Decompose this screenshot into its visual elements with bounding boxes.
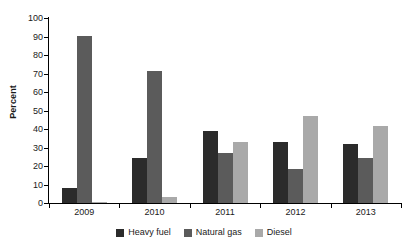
legend-label: Heavy fuel — [128, 228, 171, 237]
y-axis-tick-labels: 0102030405060708090100 — [20, 0, 46, 210]
y-axis-title: Percent — [5, 0, 21, 203]
y-axis-tick-label: 10 — [33, 180, 43, 189]
x-axis-tick-label: 2009 — [74, 208, 94, 217]
legend-swatch-icon — [116, 229, 124, 237]
bar-2011-heavy-fuel — [203, 131, 218, 203]
x-axis-tick-label: 2013 — [356, 208, 376, 217]
y-axis-tick-mark — [44, 148, 48, 149]
legend-swatch-icon — [255, 229, 263, 237]
bar-2010-natural-gas — [147, 71, 162, 203]
y-axis-tick-mark — [44, 18, 48, 19]
x-axis-tick-label: 2012 — [285, 208, 305, 217]
bar-group-2009 — [62, 18, 107, 203]
bar-2012-heavy-fuel — [273, 142, 288, 203]
x-axis-tick-label: 2010 — [145, 208, 165, 217]
bar-2009-diesel — [92, 202, 107, 203]
y-axis-title-label: Percent — [8, 85, 18, 119]
bar-2010-diesel — [162, 197, 177, 203]
bar-2012-natural-gas — [288, 169, 303, 203]
bar-2013-heavy-fuel — [343, 144, 358, 203]
legend-swatch-icon — [184, 229, 192, 237]
y-axis-tick-mark — [44, 185, 48, 186]
bar-2010-heavy-fuel — [132, 158, 147, 203]
x-axis-tick-mark — [401, 203, 402, 208]
y-axis-tick-label: 60 — [33, 88, 43, 97]
bar-2009-heavy-fuel — [62, 188, 77, 203]
y-axis-tick-mark — [44, 129, 48, 130]
y-axis-tick-label: 90 — [33, 32, 43, 41]
legend-item-heavy-fuel: Heavy fuel — [116, 228, 171, 237]
bar-2011-natural-gas — [218, 153, 233, 203]
y-axis-tick-label: 70 — [33, 69, 43, 78]
x-axis-tick-labels: 20092010201120122013 — [49, 208, 401, 222]
chart-legend: Heavy fuelNatural gasDiesel — [0, 228, 408, 237]
y-axis-tick-mark — [44, 92, 48, 93]
bar-chart: Percent 0102030405060708090100 200920102… — [0, 0, 408, 248]
legend-label: Diesel — [267, 228, 292, 237]
bar-2013-natural-gas — [358, 158, 373, 203]
bar-2011-diesel — [233, 142, 248, 203]
bar-group-2011 — [203, 18, 248, 203]
y-axis-tick-label: 80 — [33, 51, 43, 60]
bar-2013-diesel — [373, 126, 388, 203]
legend-item-natural-gas: Natural gas — [184, 228, 242, 237]
x-axis-line — [48, 203, 402, 204]
y-axis-tick-label: 50 — [33, 106, 43, 115]
legend-item-diesel: Diesel — [255, 228, 292, 237]
y-axis-tick-label: 40 — [33, 125, 43, 134]
y-axis-tick-mark — [44, 37, 48, 38]
bar-2009-natural-gas — [77, 36, 92, 203]
y-axis-tick-label: 100 — [28, 14, 43, 23]
y-axis-tick-label: 30 — [33, 143, 43, 152]
y-axis-tick-label: 0 — [38, 199, 43, 208]
bar-group-2012 — [273, 18, 318, 203]
x-axis-tick-label: 2011 — [215, 208, 234, 217]
y-axis-tick-mark — [44, 74, 48, 75]
y-axis-tick-mark — [44, 111, 48, 112]
bar-group-2013 — [343, 18, 388, 203]
plot-area — [49, 18, 401, 203]
y-axis-tick-mark — [44, 203, 48, 204]
bar-2012-diesel — [303, 116, 318, 203]
y-axis-tick-label: 20 — [33, 162, 43, 171]
y-axis-line — [48, 17, 49, 203]
y-axis-tick-mark — [44, 55, 48, 56]
legend-label: Natural gas — [196, 228, 242, 237]
bar-group-2010 — [132, 18, 177, 203]
y-axis-tick-mark — [44, 166, 48, 167]
